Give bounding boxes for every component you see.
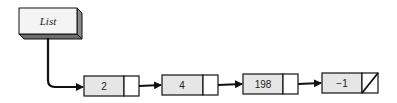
list-node: −1: [322, 73, 378, 93]
list-head-box: List: [19, 8, 82, 39]
next-arrow: [218, 84, 242, 85]
next-pointer-cell: [203, 75, 218, 95]
node-value: 198: [255, 79, 272, 90]
list-node: 4: [162, 75, 218, 95]
linked-list-diagram: List 2 4 198 −1: [0, 0, 397, 103]
next-arrow: [298, 83, 321, 84]
head-pointer-arrow: [48, 38, 83, 87]
list-head-label: List: [39, 15, 57, 27]
node-value: 2: [101, 81, 107, 92]
list-node: 198: [243, 74, 298, 94]
node-value: −1: [336, 78, 348, 89]
next-pointer-cell: [124, 76, 139, 96]
next-pointer-cell: [283, 74, 298, 94]
next-arrow: [139, 85, 161, 86]
list-node: 2: [84, 76, 139, 96]
node-value: 4: [179, 80, 185, 91]
